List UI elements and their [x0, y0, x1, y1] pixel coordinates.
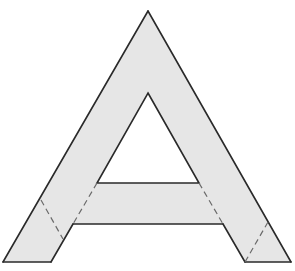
- letter-a-diagram: [0, 0, 295, 271]
- letter-a-svg: [0, 0, 295, 271]
